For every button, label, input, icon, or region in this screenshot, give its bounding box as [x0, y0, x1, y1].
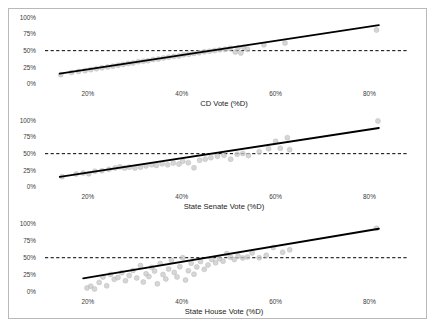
scatter-point: [146, 274, 151, 279]
figure-canvas: 0%25%50%75%100%20%40%60%80%CD Vote (%D) …: [0, 0, 436, 329]
scatter-point: [169, 258, 174, 263]
scatter-point: [191, 272, 196, 277]
scatter-point: [194, 264, 199, 269]
scatter-point: [215, 154, 220, 159]
y-tick-label: 100%: [20, 117, 37, 124]
scatter-point: [285, 135, 290, 140]
scatter-point: [257, 149, 262, 154]
scatter-plot-1: 0%25%50%75%100%20%40%60%80%State Senate …: [0, 111, 419, 215]
scatter-point: [222, 153, 227, 158]
regression-line: [83, 229, 379, 279]
y-tick-label: 100%: [20, 220, 37, 227]
x-tick-label: 80%: [363, 193, 376, 200]
scatter-point: [141, 280, 146, 285]
x-axis-title: State House Vote (%D): [185, 307, 264, 316]
x-tick-label: 40%: [175, 193, 188, 200]
x-tick-label: 60%: [269, 90, 282, 97]
y-tick-label: 25%: [23, 64, 36, 71]
scatter-point: [180, 159, 185, 164]
scatter-point: [221, 259, 226, 264]
scatter-point: [165, 162, 170, 167]
regression-line: [60, 25, 379, 74]
y-tick-label: 50%: [23, 47, 36, 54]
scatter-point: [235, 152, 240, 157]
scatter-point: [213, 260, 218, 265]
y-tick-label: 75%: [23, 30, 36, 37]
x-tick-label: 20%: [82, 90, 95, 97]
scatter-point: [228, 157, 233, 162]
scatter-point: [233, 50, 238, 55]
scatter-point: [115, 275, 120, 280]
scatter-point: [127, 273, 132, 278]
scatter-point: [134, 275, 139, 280]
x-tick-label: 60%: [269, 193, 282, 200]
scatter-point: [246, 153, 251, 158]
scatter-point: [238, 51, 243, 56]
scatter-point: [186, 160, 191, 165]
scatter-point: [283, 41, 288, 46]
x-tick-label: 60%: [269, 298, 282, 305]
y-tick-label: 0%: [27, 80, 37, 87]
scatter-point: [280, 250, 285, 255]
y-tick-label: 50%: [23, 150, 36, 157]
scatter-plot-0: 0%25%50%75%100%20%40%60%80%CD Vote (%D): [0, 8, 419, 112]
scatter-point: [206, 262, 211, 267]
scatter-point: [240, 151, 245, 156]
y-tick-label: 25%: [23, 167, 36, 174]
scatter-point: [245, 255, 250, 260]
scatter-point: [172, 270, 177, 275]
y-tick-label: 25%: [23, 271, 36, 278]
x-tick-label: 20%: [82, 193, 95, 200]
scatter-points: [58, 28, 379, 78]
scatter-point: [191, 165, 196, 170]
scatter-point: [161, 272, 166, 277]
y-tick-label: 50%: [23, 254, 36, 261]
scatter-point: [278, 146, 283, 151]
scatter-point: [92, 286, 97, 291]
scatter-point: [374, 28, 379, 33]
scatter-point: [208, 155, 213, 160]
scatter-point: [163, 276, 168, 281]
panel-state-senate-vote: 0%25%50%75%100%20%40%60%80%State Senate …: [0, 111, 419, 215]
scatter-point: [245, 47, 250, 52]
x-tick-label: 40%: [175, 90, 188, 97]
scatter-point: [202, 267, 207, 272]
scatter-point: [266, 146, 271, 151]
scatter-point: [171, 161, 176, 166]
scatter-point: [166, 267, 171, 272]
panel-cd-vote: 0%25%50%75%100%20%40%60%80%CD Vote (%D): [0, 8, 419, 112]
y-tick-label: 100%: [20, 14, 37, 21]
scatter-point: [97, 280, 102, 285]
y-tick-label: 75%: [23, 133, 36, 140]
panel-state-house-vote: 0%25%50%75%100%20%40%60%80%State House V…: [0, 214, 419, 319]
x-tick-label: 80%: [363, 90, 376, 97]
scatter-point: [257, 255, 262, 260]
scatter-point: [240, 256, 245, 261]
y-tick-label: 0%: [27, 288, 37, 295]
scatter-point: [186, 268, 191, 273]
scatter-point: [203, 157, 208, 162]
scatter-point: [287, 247, 292, 252]
x-tick-label: 80%: [363, 298, 376, 305]
scatter-point: [236, 254, 241, 259]
scatter-point: [154, 163, 159, 168]
scatter-point: [180, 255, 185, 260]
x-tick-label: 40%: [175, 298, 188, 305]
scatter-point: [183, 278, 188, 283]
scatter-point: [155, 281, 160, 286]
scatter-point: [175, 274, 180, 279]
scatter-point: [264, 253, 269, 258]
scatter-point: [152, 269, 157, 274]
y-tick-label: 0%: [27, 183, 37, 190]
x-axis-title: CD Vote (%D): [200, 99, 248, 108]
scatter-point: [138, 263, 143, 268]
scatter-point: [375, 119, 380, 124]
y-tick-label: 75%: [23, 237, 36, 244]
scatter-point: [123, 278, 128, 283]
x-tick-label: 20%: [82, 298, 95, 305]
scatter-plot-2: 0%25%50%75%100%20%40%60%80%State House V…: [0, 214, 419, 319]
scatter-point: [287, 147, 292, 152]
scatter-point: [104, 283, 109, 288]
scatter-point: [177, 264, 182, 269]
scatter-point: [197, 158, 202, 163]
